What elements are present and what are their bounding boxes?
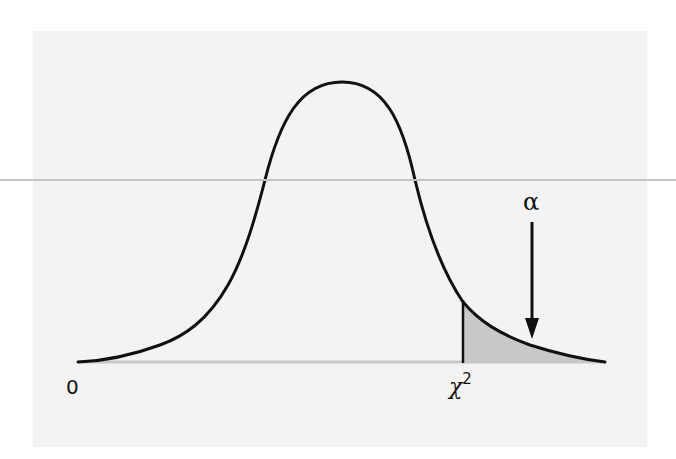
chi-symbol: χ (449, 374, 462, 399)
chi-exponent: 2 (462, 370, 472, 388)
origin-label: 0 (66, 375, 79, 399)
alpha-label: α (523, 188, 539, 216)
arrow-down-icon (525, 222, 539, 339)
horizontal-divider-line (0, 179, 676, 181)
distribution-figure (0, 0, 676, 459)
critical-value-label: χ2 (449, 372, 472, 399)
